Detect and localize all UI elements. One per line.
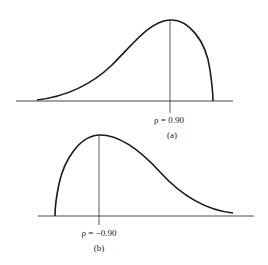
panel-b-rho-label: ρ = −0.90 bbox=[82, 228, 117, 238]
panel-a-rho-label: ρ = 0.90 bbox=[154, 115, 184, 125]
panel-a-caption: (a) bbox=[167, 130, 177, 140]
panel-a-curve bbox=[37, 20, 213, 101]
panel-b-curve bbox=[55, 135, 233, 216]
panel-a: ρ = 0.90 (a) bbox=[16, 20, 233, 140]
panel-b: ρ = −0.90 (b) bbox=[38, 135, 254, 253]
panel-b-caption: (b) bbox=[94, 243, 105, 253]
skewed-distribution-figure: ρ = 0.90 (a) ρ = −0.90 (b) bbox=[0, 0, 268, 265]
